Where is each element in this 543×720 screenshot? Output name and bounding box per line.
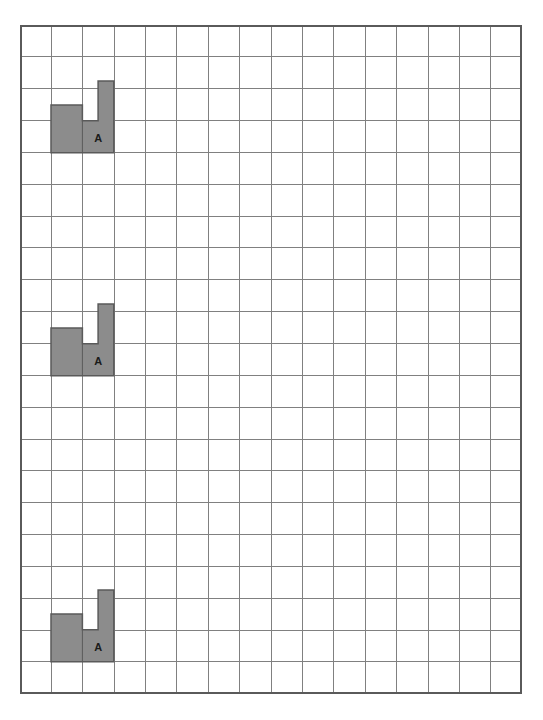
worksheet-canvas: AAA [0, 0, 543, 720]
shape-3-graphic: A [51, 590, 114, 662]
shape-1-label: A [95, 131, 103, 143]
shape-1: A [51, 81, 114, 153]
shape-3: A [51, 590, 114, 662]
shape-2: A [51, 304, 114, 376]
shape-1-graphic: A [51, 81, 114, 153]
shape-2-graphic: A [51, 304, 114, 376]
shape-3-label: A [95, 641, 103, 653]
shape-2-label: A [95, 354, 103, 366]
